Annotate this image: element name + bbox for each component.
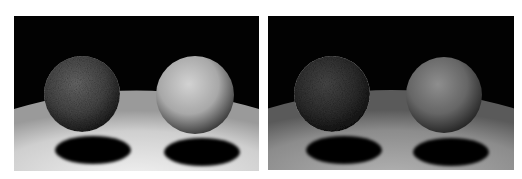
render-panel-right	[268, 16, 514, 170]
scene-render	[14, 16, 259, 171]
sphere-shadow	[55, 136, 131, 164]
sphere-shadow	[306, 136, 382, 164]
render-panel-left	[14, 16, 259, 171]
sphere-shadow	[164, 138, 240, 166]
dark-textured-sphere	[44, 56, 120, 132]
sphere-shadow	[413, 138, 489, 166]
light-matte-sphere	[156, 56, 234, 134]
light-matte-sphere	[406, 57, 482, 133]
dark-textured-sphere	[294, 56, 370, 132]
scene-render	[268, 16, 514, 170]
